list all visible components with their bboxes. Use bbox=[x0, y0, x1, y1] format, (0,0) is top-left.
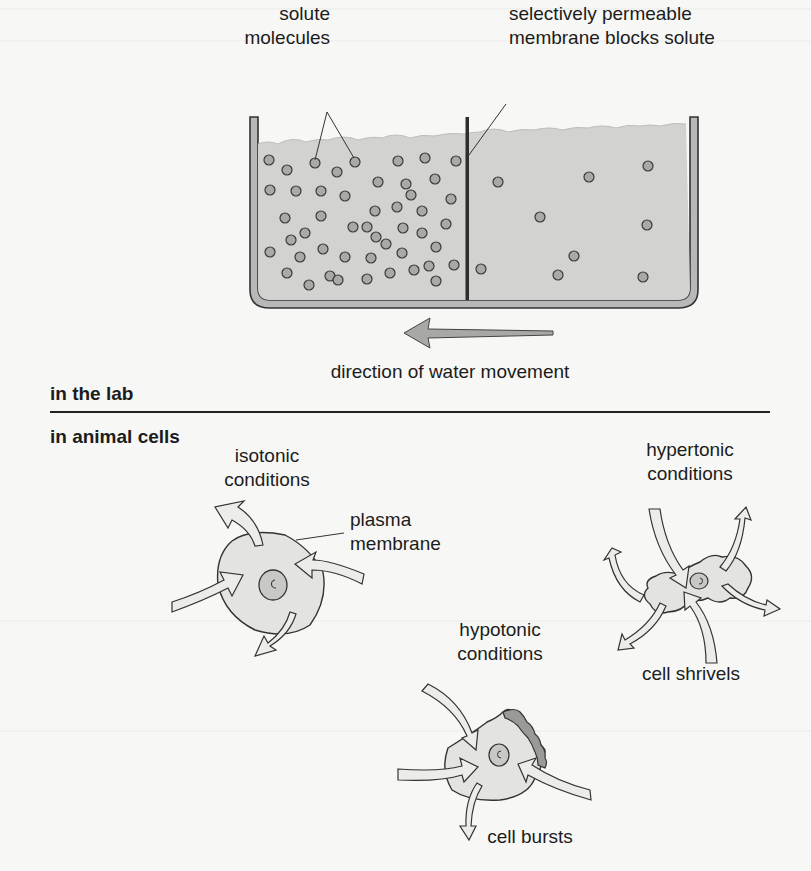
svg-text:membrane blocks solute: membrane blocks solute bbox=[509, 27, 715, 48]
svg-text:conditions: conditions bbox=[457, 643, 543, 664]
svg-text:hypertonic: hypertonic bbox=[646, 439, 734, 460]
svg-text:plasma: plasma bbox=[350, 509, 412, 530]
svg-text:conditions: conditions bbox=[224, 469, 310, 490]
svg-text:conditions: conditions bbox=[647, 463, 733, 484]
selectively-permeable-membrane bbox=[466, 117, 470, 300]
water-direction-arrow bbox=[404, 318, 553, 348]
section-label-cells: in animal cells bbox=[50, 426, 180, 447]
isotonic-cell: isotonic conditions bbox=[172, 445, 364, 656]
hypertonic-result: cell shrivels bbox=[642, 663, 740, 684]
svg-text:isotonic: isotonic bbox=[235, 445, 299, 466]
hypotonic-cell: hypotonic conditions cell bursts bbox=[398, 619, 591, 847]
svg-text:molecules: molecules bbox=[244, 27, 330, 48]
plasma-membrane-label: plasma membrane bbox=[296, 509, 441, 554]
cells-section: in animal cells isotonic conditions plas… bbox=[50, 426, 780, 847]
lab-section: solute molecules selectively permeable m… bbox=[50, 3, 715, 404]
svg-text:solute: solute bbox=[279, 3, 330, 24]
solute-label: solute molecules bbox=[244, 3, 354, 160]
svg-text:selectively permeable: selectively permeable bbox=[509, 3, 692, 24]
hypertonic-cell: hypertonic conditions cell shrivels bbox=[604, 439, 780, 684]
svg-text:membrane: membrane bbox=[350, 533, 441, 554]
osmosis-diagram: solute molecules selectively permeable m… bbox=[0, 0, 811, 871]
svg-text:hypotonic: hypotonic bbox=[459, 619, 540, 640]
hypotonic-result: cell bursts bbox=[487, 826, 573, 847]
arrow-caption: direction of water movement bbox=[331, 361, 570, 382]
section-label-lab: in the lab bbox=[50, 383, 133, 404]
